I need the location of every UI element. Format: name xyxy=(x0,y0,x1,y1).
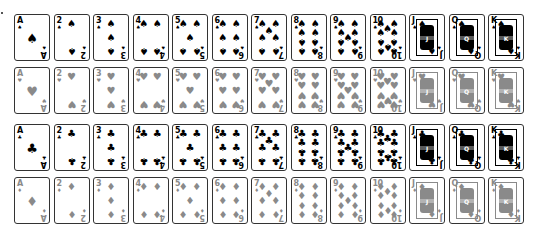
card-2-of-diamonds[interactable]: 22♦♦♦♦ xyxy=(54,177,90,224)
card-10-of-diamonds[interactable]: 1010♦♦♦♦♦♦♦♦♦♦♦♦ xyxy=(370,177,406,224)
card-7-of-hearts[interactable]: 77♥♥♥♥♥♥♥♥♥ xyxy=(251,67,287,114)
spades-icon: ♠ xyxy=(428,46,436,55)
hearts-icon: ♥ xyxy=(218,99,227,109)
clubs-icon: ♣ xyxy=(258,143,267,153)
card-3-of-diamonds[interactable]: 33♦♦♦♦♦ xyxy=(93,177,129,224)
spades-icon: ♠ xyxy=(232,19,241,29)
diamonds-icon: ♦ xyxy=(297,209,306,219)
spades-icon: ♠ xyxy=(258,33,267,43)
card-q-of-hearts[interactable]: QQ♥♥♥♥Q xyxy=(449,67,485,114)
card-10-of-hearts[interactable]: 1010♥♥♥♥♥♥♥♥♥♥♥♥ xyxy=(370,67,406,114)
card-10-of-spades[interactable]: 1010♠♠♠♠♠♠♠♠♠♠♠♠ xyxy=(370,14,406,61)
card-2-of-spades[interactable]: 22♠♠♠♠ xyxy=(54,14,90,61)
spades-icon: ♠ xyxy=(458,20,466,29)
card-rank-label-inverted: 3 xyxy=(121,160,126,168)
spades-icon: ♠ xyxy=(507,46,515,55)
clubs-icon: ♣ xyxy=(297,156,306,166)
card-10-of-clubs[interactable]: 1010♣♣♣♣♣♣♣♣♣♣♣♣ xyxy=(370,124,406,171)
card-8-of-spades[interactable]: 88♠♠♠♠♠♠♠♠♠♠ xyxy=(291,14,327,61)
diamonds-icon: ♦ xyxy=(42,208,46,213)
clubs-icon: ♣ xyxy=(428,156,436,165)
card-5-of-clubs[interactable]: 55♣♣♣♣♣♣♣ xyxy=(172,124,208,171)
spades-icon: ♠ xyxy=(311,46,320,56)
card-4-of-clubs[interactable]: 44♣♣♣♣♣♣ xyxy=(133,124,169,171)
card-k-of-hearts[interactable]: KK♥♥♥♥K xyxy=(488,67,524,114)
card-5-of-diamonds[interactable]: 55♦♦♦♦♦♦♦ xyxy=(172,177,208,224)
card-3-of-spades[interactable]: 33♠♠♠♠♠ xyxy=(93,14,129,61)
card-a-of-spades[interactable]: AA♠♠♠ xyxy=(14,14,50,61)
card-rank-label-inverted: 3 xyxy=(121,50,126,58)
card-j-of-clubs[interactable]: JJ♣♣♣♣J xyxy=(409,124,445,171)
hearts-icon: ♥ xyxy=(42,98,46,103)
card-9-of-hearts[interactable]: 99♥♥♥♥♥♥♥♥♥♥♥ xyxy=(330,67,366,114)
spades-icon: ♠ xyxy=(153,19,162,29)
card-7-of-diamonds[interactable]: 77♦♦♦♦♦♦♦♦♦ xyxy=(251,177,287,224)
card-5-of-hearts[interactable]: 55♥♥♥♥♥♥♥ xyxy=(172,67,208,114)
card-rank-label-inverted: J xyxy=(440,213,442,221)
card-k-of-clubs[interactable]: KK♣♣♣♣K xyxy=(488,124,524,171)
card-k-of-spades[interactable]: KK♠♠♠♠K xyxy=(488,14,524,61)
spades-icon: ♠ xyxy=(218,46,227,56)
card-8-of-diamonds[interactable]: 88♦♦♦♦♦♦♦♦♦♦ xyxy=(291,177,327,224)
face-card-art: ♦♦J xyxy=(416,182,438,219)
spades-icon: ♠ xyxy=(107,46,116,56)
card-9-of-spades[interactable]: 99♠♠♠♠♠♠♠♠♠♠♠ xyxy=(330,14,366,61)
diamonds-icon: ♦ xyxy=(26,194,38,207)
hearts-icon: ♥ xyxy=(67,72,76,82)
card-rank-label-inverted: 3 xyxy=(121,213,126,221)
card-3-of-hearts[interactable]: 33♥♥♥♥♥ xyxy=(93,67,129,114)
card-2-of-hearts[interactable]: 22♥♥♥♥ xyxy=(54,67,90,114)
diamonds-icon: ♦ xyxy=(67,182,76,192)
card-4-of-diamonds[interactable]: 44♦♦♦♦♦♦ xyxy=(133,177,169,224)
clubs-icon: ♣ xyxy=(418,130,426,139)
card-4-of-spades[interactable]: 44♠♠♠♠♠♠ xyxy=(133,14,169,61)
card-6-of-clubs[interactable]: 66♣♣♣♣♣♣♣♣ xyxy=(212,124,248,171)
face-card-art: ♠♠Q xyxy=(456,19,478,56)
card-q-of-diamonds[interactable]: QQ♦♦♦♦Q xyxy=(449,177,485,224)
card-rank-label-inverted: A xyxy=(41,213,47,221)
card-5-of-spades[interactable]: 55♠♠♠♠♠♠♠ xyxy=(172,14,208,61)
card-j-of-diamonds[interactable]: JJ♦♦♦♦J xyxy=(409,177,445,224)
hearts-icon: ♥ xyxy=(107,99,116,109)
card-2-of-clubs[interactable]: 22♣♣♣♣ xyxy=(54,124,90,171)
card-j-of-hearts[interactable]: JJ♥♥♥♥J xyxy=(409,67,445,114)
card-6-of-hearts[interactable]: 66♥♥♥♥♥♥♥♥ xyxy=(212,67,248,114)
diamonds-icon: ♦ xyxy=(192,182,201,192)
card-a-of-hearts[interactable]: AA♥♥♥ xyxy=(14,67,50,114)
card-a-of-clubs[interactable]: AA♣♣♣ xyxy=(14,124,50,171)
face-letter: J xyxy=(426,197,428,204)
spades-icon: ♠ xyxy=(121,45,125,50)
card-7-of-clubs[interactable]: 77♣♣♣♣♣♣♣♣♣ xyxy=(251,124,287,171)
card-rank-label-inverted: 2 xyxy=(81,213,86,221)
card-8-of-clubs[interactable]: 88♣♣♣♣♣♣♣♣♣♣ xyxy=(291,124,327,171)
card-8-of-hearts[interactable]: 88♥♥♥♥♥♥♥♥♥♥ xyxy=(291,67,327,114)
hearts-icon: ♥ xyxy=(82,98,86,103)
card-3-of-clubs[interactable]: 33♣♣♣♣♣ xyxy=(93,124,129,171)
hearts-icon: ♥ xyxy=(121,98,125,103)
spades-icon: ♠ xyxy=(107,19,116,29)
clubs-icon: ♣ xyxy=(192,156,201,166)
spades-icon: ♠ xyxy=(97,25,101,30)
card-9-of-diamonds[interactable]: 99♦♦♦♦♦♦♦♦♦♦♦ xyxy=(330,177,366,224)
diamonds-icon: ♦ xyxy=(428,209,436,218)
clubs-icon: ♣ xyxy=(153,129,162,139)
card-j-of-spades[interactable]: JJ♠♠♠♠J xyxy=(409,14,445,61)
hearts-icon: ♥ xyxy=(271,86,280,96)
card-rank-label-inverted: J xyxy=(440,160,442,168)
card-q-of-spades[interactable]: QQ♠♠♠♠Q xyxy=(449,14,485,61)
spades-icon: ♠ xyxy=(192,19,201,29)
card-6-of-diamonds[interactable]: 66♦♦♦♦♦♦♦♦ xyxy=(212,177,248,224)
hearts-icon: ♥ xyxy=(26,84,38,97)
spades-icon: ♠ xyxy=(42,45,46,50)
spades-icon: ♠ xyxy=(467,46,475,55)
card-9-of-clubs[interactable]: 99♣♣♣♣♣♣♣♣♣♣♣ xyxy=(330,124,366,171)
card-6-of-spades[interactable]: 66♠♠♠♠♠♠♠♠ xyxy=(212,14,248,61)
card-a-of-diamonds[interactable]: AA♦♦♦ xyxy=(14,177,50,224)
card-k-of-diamonds[interactable]: KK♦♦♦♦K xyxy=(488,177,524,224)
clubs-icon: ♣ xyxy=(271,143,280,153)
card-7-of-spades[interactable]: 77♠♠♠♠♠♠♠♠♠ xyxy=(251,14,287,61)
card-4-of-hearts[interactable]: 44♥♥♥♥♥♥ xyxy=(133,67,169,114)
hearts-icon: ♥ xyxy=(179,99,188,109)
clubs-icon: ♣ xyxy=(121,155,125,160)
card-q-of-clubs[interactable]: QQ♣♣♣♣Q xyxy=(449,124,485,171)
